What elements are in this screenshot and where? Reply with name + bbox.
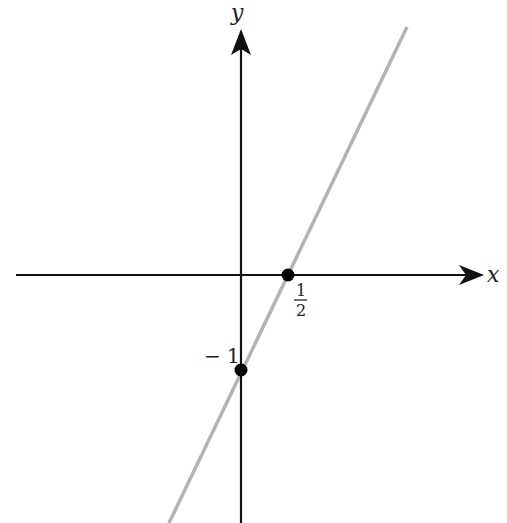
- x-axis-label: x: [487, 262, 500, 287]
- coordinate-plane: y x 1 2 − 1: [0, 0, 507, 523]
- x-intercept-denominator: 2: [296, 301, 306, 320]
- x-intercept-point: [282, 269, 295, 282]
- y-axis-label: y: [230, 0, 244, 25]
- x-intercept-numerator: 1: [296, 281, 306, 300]
- y-intercept-label: − 1: [204, 344, 240, 368]
